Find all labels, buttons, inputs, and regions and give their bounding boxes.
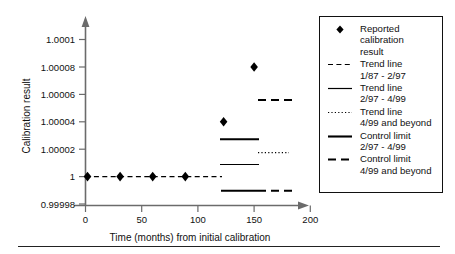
x-tick-label-150: 150 [246,214,262,225]
y-tick-label-1.00004: 1.00004 [41,116,75,127]
x-tick-label-200: 200 [302,214,318,225]
x-tick-label-100: 100 [190,214,206,225]
legend-label-trend-1987-1997: Trend line 1/87 - 2/97 [360,58,406,81]
dashed-thin-line-icon [325,58,355,71]
x-axis-ticks [86,206,311,213]
legend-label-control-limit-1999-beyond: Control limit 4/99 and beyond [360,153,432,176]
legend-item-control-limit-1997-1999: Control limit 2/97 - 4/99 [325,130,438,153]
x-tick-label-50: 50 [136,214,147,225]
solid-thin-line-icon [325,82,355,95]
legend-label-trend-1999-beyond: Trend line 4/99 and beyond [360,106,432,129]
series-reported-calibration-results [84,62,258,181]
calibration-chart-figure: 1.0001 1.00008 1.00006 1.00004 1.00002 1… [0,0,455,254]
figure-bottom-rule [18,246,440,247]
legend-label-control-limit-1997-1999: Control limit 2/97 - 4/99 [360,130,411,153]
x-tick-label-0: 0 [83,214,88,225]
legend-item-trend-1997-1999: Trend line 2/97 - 4/99 [325,82,438,105]
data-point-marker [116,172,124,182]
legend-item-control-limit-1999-beyond: Control limit 4/99 and beyond [325,153,438,176]
diamond-marker-icon [325,23,355,36]
legend-item-trend-1987-1997: Trend line 1/87 - 2/97 [325,58,438,81]
dotted-thin-line-icon [325,106,355,119]
legend-label-trend-1997-1999: Trend line 2/97 - 4/99 [360,82,406,105]
dashed-thick-line-icon [325,153,355,166]
data-point-marker [149,172,157,182]
data-point-marker [250,62,258,72]
y-tick-label-1.00008: 1.00008 [41,62,75,73]
y-axis-title: Calibration result [21,78,32,153]
y-tick-label-1.00006: 1.00006 [41,89,75,100]
x-axis-title: Time (months) from initial calibration [110,232,271,243]
y-tick-label-1: 1 [70,171,75,182]
legend-label-reported-result: Reported calibration result [360,23,404,57]
legend-item-reported-result: Reported calibration result [325,23,438,57]
chart-legend: Reported calibration result Trend line 1… [319,16,443,193]
axis-lines [74,16,309,209]
data-point-marker [220,117,228,127]
legend-item-trend-1999-beyond: Trend line 4/99 and beyond [325,106,438,129]
x-axis-arrow-icon [298,202,309,210]
solid-thick-line-icon [325,130,355,143]
y-axis-arrow-icon [82,16,90,27]
y-tick-label-1.0001: 1.0001 [46,34,75,45]
y-tick-label-0.99998: 0.99998 [41,199,75,210]
y-tick-label-1.00002: 1.00002 [41,144,75,155]
y-axis-ticks [79,40,86,205]
data-point-marker [182,172,190,182]
